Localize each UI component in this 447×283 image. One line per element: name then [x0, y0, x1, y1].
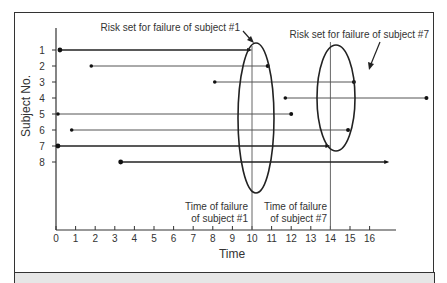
subject-5-exit-dot: [289, 112, 293, 116]
y-tick-label: 5: [39, 109, 45, 120]
annotations: Risk set for failure of subject #1 Risk …: [100, 22, 429, 70]
y-ticks: 12345678: [39, 45, 56, 168]
x-tick-label: 7: [190, 233, 196, 244]
x-ticks: 012345678910111213141516: [53, 226, 375, 244]
x-tick-label: 2: [92, 233, 98, 244]
x-tick-label: 12: [286, 233, 298, 244]
subject-5-entry-dot: [56, 112, 60, 116]
y-axis-label: Subject No.: [19, 75, 33, 137]
subject-4-exit-dot: [424, 96, 428, 100]
arrow-risk-set-7: [371, 42, 380, 64]
failure-label-7-line2: of subject #7: [270, 213, 327, 224]
y-tick-label: 7: [39, 141, 45, 152]
y-tick-label: 4: [39, 93, 45, 104]
y-tick-label: 2: [39, 61, 45, 72]
y-tick-label: 6: [39, 125, 45, 136]
subject-4-entry-dot: [284, 96, 288, 100]
subject-8-end-arrow: [384, 160, 389, 164]
x-tick-label: 5: [151, 233, 157, 244]
x-tick-label: 15: [344, 233, 356, 244]
failure-label-1-line1: Time of failure: [185, 201, 248, 212]
x-tick-label: 13: [305, 233, 317, 244]
subject-1-entry-dot: [58, 48, 63, 53]
failure-label-1-line2: of subject #1: [191, 213, 248, 224]
failure-time-labels: Time of failure of subject #1 Time of fa…: [185, 201, 327, 224]
subject-8-entry-dot: [118, 160, 123, 165]
subject-7: [56, 144, 331, 149]
x-tick-label: 6: [171, 233, 177, 244]
x-tick-label: 11: [266, 233, 277, 244]
subject-6-entry-dot: [70, 128, 74, 132]
y-tick-label: 3: [39, 77, 45, 88]
subject-4: [284, 96, 429, 100]
survival-diagram: 012345678910111213141516 12345678 Risk s…: [0, 0, 447, 283]
subject-2-entry-dot: [89, 64, 93, 68]
annotation-risk-set-7: Risk set for failure of subject #7: [289, 29, 429, 40]
subject-7-entry-dot: [56, 144, 61, 149]
subject-3: [213, 80, 356, 84]
subject-1: [58, 48, 253, 53]
subject-6-exit-dot: [346, 128, 350, 132]
x-tick-label: 16: [364, 233, 376, 244]
subject-3-entry-dot: [213, 80, 217, 84]
subject-6: [70, 128, 350, 132]
x-tick-label: 0: [53, 233, 59, 244]
subject-5: [56, 112, 293, 116]
x-tick-label: 1: [73, 233, 79, 244]
annotation-risk-set-1: Risk set for failure of subject #1: [100, 22, 240, 33]
y-tick-label: 8: [39, 157, 45, 168]
x-tick-label: 4: [132, 233, 138, 244]
x-tick-label: 14: [325, 233, 337, 244]
x-axis-label: Time: [219, 247, 246, 261]
axes: [56, 28, 396, 230]
failure-label-7-line1: Time of failure: [264, 201, 327, 212]
x-tick-label: 9: [230, 233, 236, 244]
y-tick-label: 1: [39, 45, 45, 56]
subject-8: [118, 160, 389, 165]
arrowhead-risk-set-7: [368, 62, 374, 70]
x-tick-label: 3: [112, 233, 118, 244]
x-tick-label: 10: [246, 233, 258, 244]
x-tick-label: 8: [210, 233, 216, 244]
